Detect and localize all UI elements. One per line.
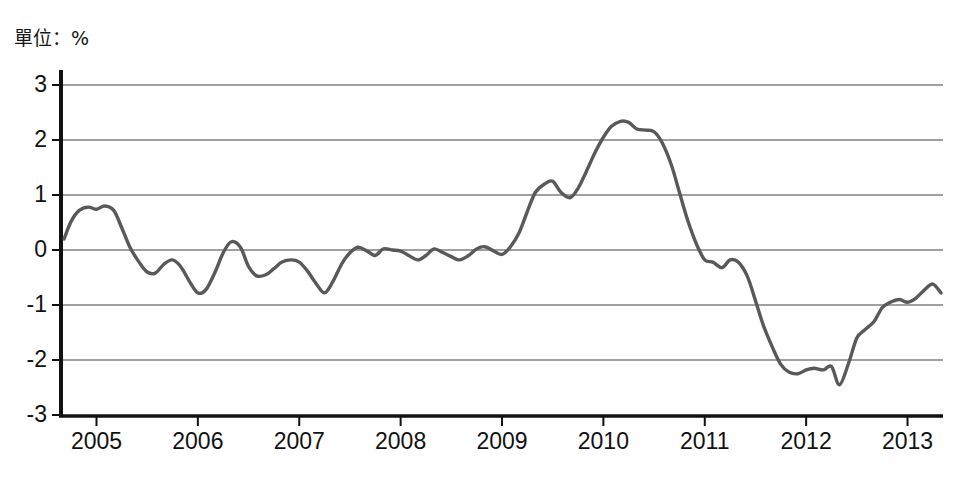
x-tick-label: 2006: [153, 429, 243, 454]
x-tick-label: 2008: [356, 429, 446, 454]
x-tick-label: 2012: [761, 429, 851, 454]
chart-figure: 單位：% 3210-1-2-3 200520062007200820092010…: [0, 0, 973, 482]
x-tick-label: 2011: [660, 429, 750, 454]
x-axis-tick-labels: 200520062007200820092010201120122013: [0, 0, 973, 482]
x-tick-label: 2009: [457, 429, 547, 454]
x-tick-label: 2013: [863, 429, 953, 454]
x-tick-label: 2010: [558, 429, 648, 454]
x-tick-label: 2005: [51, 429, 141, 454]
x-tick-label: 2007: [254, 429, 344, 454]
